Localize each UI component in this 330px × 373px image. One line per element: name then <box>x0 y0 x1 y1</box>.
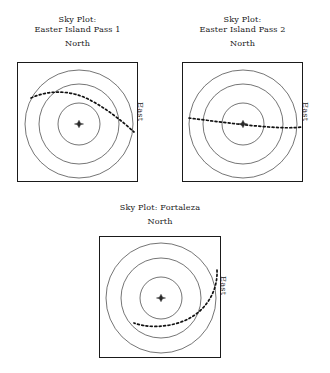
satellite-ground-track <box>31 92 134 132</box>
north-label-fortaleza: North <box>147 217 172 226</box>
panel-title-easter-island-pass-2: Sky Plot: Easter Island Pass 2 <box>199 14 285 34</box>
plot-box-easter-island-pass-2 <box>182 62 303 182</box>
zenith-center-marker <box>238 120 247 128</box>
north-label-easter-island-pass-1: North <box>65 39 90 48</box>
sky-plots-figure: Sky Plot: Easter Island Pass 1 North Eas… <box>0 0 330 373</box>
sky-plot-panel-easter-island-pass-2: Sky Plot: Easter Island Pass 2 North Eas… <box>182 14 303 182</box>
sky-plot-graphic-easter-island-pass-2 <box>183 63 303 182</box>
sky-plot-panel-easter-island-pass-1: Sky Plot: Easter Island Pass 1 North Eas… <box>17 14 138 182</box>
satellite-ground-track <box>134 270 217 326</box>
east-label-fortaleza: East <box>219 276 228 295</box>
satellite-ground-track <box>189 118 302 128</box>
sky-plot-graphic-easter-island-pass-1 <box>18 63 138 182</box>
east-label-easter-island-pass-1: East <box>136 102 145 121</box>
panel-title-fortaleza: Sky Plot: Fortaleza <box>120 202 200 212</box>
sky-plot-panel-fortaleza: Sky Plot: Fortaleza North East <box>99 202 221 358</box>
east-label-easter-island-pass-2: East <box>301 102 310 121</box>
sky-plot-graphic-fortaleza <box>100 237 221 358</box>
north-label-easter-island-pass-2: North <box>230 39 255 48</box>
zenith-center-marker <box>74 120 83 128</box>
zenith-center-marker <box>156 294 165 302</box>
plot-box-easter-island-pass-1 <box>17 62 138 182</box>
plot-box-fortaleza <box>99 236 221 358</box>
panel-title-easter-island-pass-1: Sky Plot: Easter Island Pass 1 <box>34 14 120 34</box>
